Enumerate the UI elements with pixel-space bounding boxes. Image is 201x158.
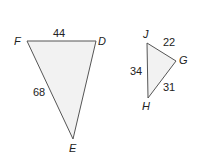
vertex-j: J [143,29,149,40]
vertex-f: F [14,36,21,47]
vertex-g: G [179,55,188,66]
vertex-e: E [69,143,76,154]
side-jh-length: 34 [130,66,142,77]
diagram-canvas [0,0,201,158]
side-fe-length: 68 [33,87,45,98]
vertex-d: D [98,36,106,47]
side-gh-length: 31 [163,82,175,93]
side-jg-length: 22 [163,37,175,48]
side-fd-length: 44 [53,28,65,39]
vertex-h: H [142,101,150,112]
